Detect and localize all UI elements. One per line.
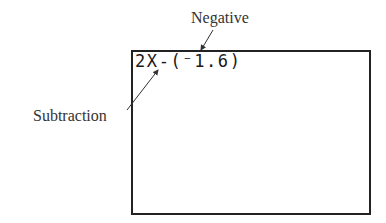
subtraction-arrow-icon — [127, 70, 158, 110]
annotation-arrows — [0, 0, 386, 223]
negative-arrow-icon — [201, 30, 213, 50]
